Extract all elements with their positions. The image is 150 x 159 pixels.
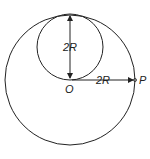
origin-label: O [65,83,74,95]
diagram-canvas: 2R 2R O P [0,0,150,159]
radius-label: 2R [95,74,110,86]
diameter-label: 2R [62,41,77,53]
point-p-label: P [139,74,147,86]
